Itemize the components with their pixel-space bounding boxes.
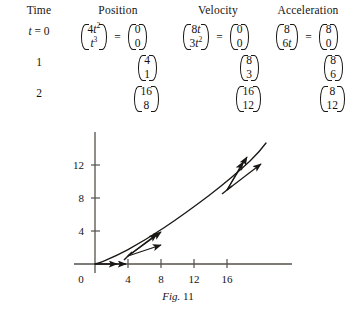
acceleration-value-vector-t0: 8 0 (316, 23, 342, 50)
paren-right (205, 23, 209, 50)
paren-left (138, 54, 142, 81)
paren-left (81, 23, 85, 50)
column-header-position: Position (70, 4, 166, 16)
cell-acceleration-t0: 8 6t = 8 0 (258, 22, 356, 52)
y-tick-label-4: 4 (79, 225, 85, 237)
position-value-bottom: 8 (143, 99, 149, 113)
x-tick-label-4: 4 (125, 273, 131, 285)
paren-right (294, 23, 298, 50)
resultant-vector-t1 (128, 234, 157, 256)
paren-right (143, 23, 147, 50)
paren-left (236, 85, 240, 112)
paren-left (134, 85, 138, 112)
acceleration-expression-vector: 8 6t (272, 23, 301, 50)
trajectory-curve (95, 143, 266, 264)
position-value-vector-t0: 0 0 (125, 23, 151, 50)
figure-caption-prefix: Fig. (162, 290, 180, 302)
cell-velocity-t1: 8 3 (166, 53, 266, 83)
time-value: 0 (44, 25, 50, 37)
paren-left (276, 23, 280, 50)
paren-left (324, 54, 328, 81)
velocity-equals-t0: = (212, 31, 227, 43)
paren-left (183, 23, 187, 50)
time-equals: = (34, 25, 41, 37)
acceleration-value-vector-t1: 8 6 (320, 54, 346, 81)
y-tick-label-8: 8 (79, 192, 85, 204)
velocity-value-vector-t0: 0 0 (227, 23, 253, 50)
y-tick-label-12: 12 (73, 159, 84, 171)
chart-axes (74, 132, 292, 273)
figure-caption: Fig. 11 (0, 290, 356, 302)
x-tick-label-8: 8 (158, 273, 164, 285)
paren-right (341, 85, 345, 112)
paren-right (245, 23, 249, 50)
chart-svg: 0 4 8 12 16 4 8 12 (0, 116, 356, 311)
paren-left (319, 23, 323, 50)
cell-velocity-t0: 8t 3t2 = 0 0 (166, 22, 266, 52)
trajectory-chart: 0 4 8 12 16 4 8 12 (0, 116, 356, 311)
paren-left (128, 23, 132, 50)
paren-left (240, 54, 244, 81)
acceleration-value-top: 8 (329, 85, 335, 99)
cell-position-t1: 4 1 (62, 53, 166, 83)
acceleration-value-vector-t2: 8 12 (317, 85, 349, 112)
figure-caption-number: 11 (183, 290, 194, 302)
cell-position-t0: 4t2 t3 = 0 0 (62, 22, 166, 52)
column-header-time: Time (8, 4, 70, 16)
acceleration-equals-t0: = (301, 31, 316, 43)
kinematics-table: Time Position Velocity Acceleration t = … (0, 0, 356, 118)
position-value-vector-t1: 4 1 (134, 54, 160, 81)
column-header-acceleration: Acceleration (262, 4, 354, 16)
figure-page: Time Position Velocity Acceleration t = … (0, 0, 356, 311)
row-label-t2: 2 (8, 87, 70, 99)
cell-acceleration-t2: 8 12 (258, 84, 356, 114)
paren-right (155, 85, 159, 112)
position-expr-bottom: t3 (90, 37, 97, 51)
position-value-vector-t2: 16 8 (131, 85, 163, 112)
time-variable: t (28, 25, 31, 37)
paren-left (230, 23, 234, 50)
acceleration-expr-top: 8 (284, 23, 290, 37)
resultant-vector-t2 (227, 162, 243, 190)
position-equals-t0: = (110, 31, 125, 43)
paren-right (103, 23, 107, 50)
x-tick-label-16: 16 (222, 273, 234, 285)
vector-group-t1 (128, 232, 161, 256)
position-expression-vector: 4t2 t3 (78, 23, 111, 50)
cell-velocity-t2: 16 12 (166, 84, 266, 114)
paren-right (153, 54, 157, 81)
paren-right (339, 54, 343, 81)
x-tick-label-0: 0 (78, 273, 84, 285)
paren-right (334, 23, 338, 50)
x-tick-label-12: 12 (189, 273, 200, 285)
row-label-t1: 1 (8, 56, 70, 68)
velocity-expression-vector: 8t 3t2 (180, 23, 213, 50)
row-label-t0: t = 0 (8, 25, 70, 37)
column-header-velocity: Velocity (170, 4, 266, 16)
curve-markers (124, 186, 232, 260)
cell-position-t2: 16 8 (62, 84, 166, 114)
cell-acceleration-t1: 8 6 (258, 53, 356, 83)
paren-left (320, 85, 324, 112)
vector-group-t2 (227, 157, 261, 190)
